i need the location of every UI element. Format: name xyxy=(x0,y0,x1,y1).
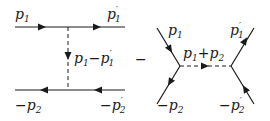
arrow-right-icon xyxy=(38,24,46,31)
arrow-left-icon xyxy=(40,87,48,94)
s-channel-diagram: p1 p′1 p1+p2 −p2 −p′2 xyxy=(157,21,254,115)
label-minus-p2: −p2 xyxy=(15,97,42,115)
label-p1: p1 xyxy=(168,22,183,40)
feynman-diagrams: p1 p′1 p1−p′1 −p2 −p′2 − p1 p′1 p1+p2 −p… xyxy=(0,0,270,121)
label-propagator-momentum: p1+p2 xyxy=(183,45,224,63)
arrow-right-icon xyxy=(201,63,209,70)
arrow-icon xyxy=(165,44,175,54)
label-p1-prime: p′1 xyxy=(107,5,121,24)
arrow-right-icon xyxy=(93,24,101,31)
t-channel-diagram: p1 p′1 p1−p′1 −p2 −p′2 xyxy=(15,5,126,115)
arrow-icon xyxy=(240,83,250,93)
label-propagator-momentum: p1−p′1 xyxy=(74,49,114,68)
minus-operator: − xyxy=(135,51,147,67)
arrow-left-icon xyxy=(94,87,102,94)
label-p1: p1 xyxy=(15,6,30,24)
arrow-down-icon xyxy=(65,52,72,60)
label-minus-p2-prime: −p′2 xyxy=(219,96,245,115)
label-minus-p2-prime: −p′2 xyxy=(100,96,126,115)
label-p1-prime: p′1 xyxy=(230,21,244,40)
label-minus-p2: −p2 xyxy=(157,97,184,115)
arrow-icon xyxy=(165,77,175,87)
